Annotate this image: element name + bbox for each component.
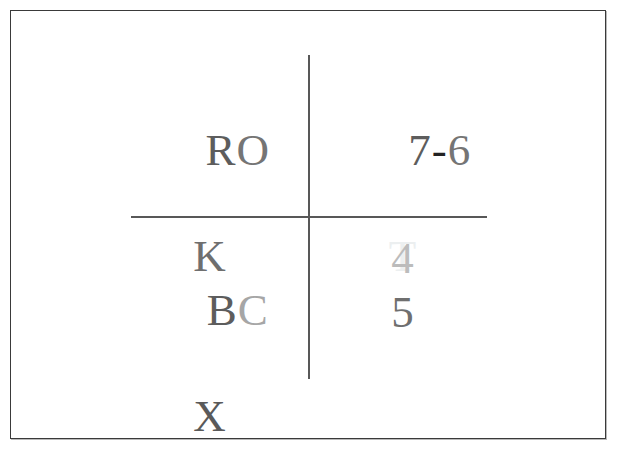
- scoreboard-figure: RO K 7-6 T BC X 4 5: [0, 0, 617, 450]
- quadrant-bottom-right-primary: 4: [391, 232, 415, 284]
- quadrant-top-left: RO K: [120, 72, 300, 208]
- quadrant-top-right: 7-6 T: [318, 72, 488, 208]
- quadrant-top-right-primary: 7-6: [335, 72, 472, 228]
- quadrant-bottom-left-primary: BC: [133, 232, 269, 388]
- glyph-top-right-1: 7: [408, 125, 432, 175]
- quadrant-bottom-left-secondary: X: [193, 388, 227, 444]
- glyph-top-left-1: R: [205, 125, 236, 175]
- glyph-top-left-2: O: [237, 125, 271, 175]
- glyph-top-right-2: -: [432, 125, 448, 175]
- quadrant-bottom-right-secondary: 5: [391, 284, 415, 340]
- glyph-bottom-left-1: B: [207, 285, 238, 335]
- glyph-bottom-left-2: C: [238, 285, 269, 335]
- quadrant-bottom-left: BC X: [120, 232, 300, 372]
- glyph-top-right-3: 6: [448, 125, 472, 175]
- quadrant-top-left-primary: RO: [132, 72, 270, 228]
- quadrant-bottom-right: 4 5: [318, 232, 488, 372]
